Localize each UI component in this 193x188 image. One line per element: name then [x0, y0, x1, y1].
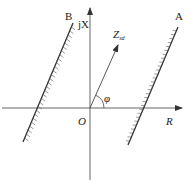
zsd-label-sub: sd — [119, 35, 125, 41]
line-b-label: B — [65, 10, 72, 22]
r-axis-label: R — [165, 115, 173, 127]
zsd-label: Zsd — [113, 28, 125, 41]
angle-arc — [96, 95, 104, 108]
boundary-line-a — [126, 27, 178, 145]
angle-phi-label: φ — [104, 92, 110, 104]
origin-label: O — [78, 115, 86, 127]
diagram-canvas: B jX A Zsd φ O R — [0, 0, 193, 188]
line-a-label: A — [175, 10, 183, 22]
jx-axis-label: jX — [77, 18, 89, 30]
impedance-diagram: B jX A Zsd φ O R — [0, 0, 193, 188]
boundary-line-b — [23, 23, 75, 142]
